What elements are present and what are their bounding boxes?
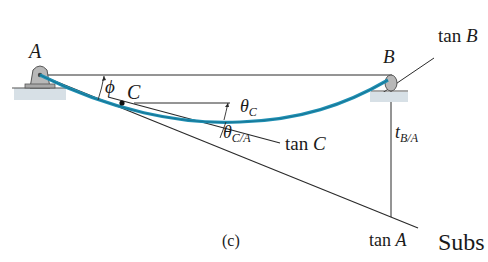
label-tan-b: tan B xyxy=(438,25,478,46)
label-theta-ca: θC/A xyxy=(223,122,251,145)
label-phi: ϕ xyxy=(105,76,115,97)
label-tan-c: tan C xyxy=(285,133,326,154)
label-tan-a: tan A xyxy=(369,230,408,250)
label-point-c: C xyxy=(127,81,141,103)
label-t-ba: tB/A xyxy=(395,122,419,145)
cut-off-text: Subs xyxy=(438,229,485,255)
label-point-b: B xyxy=(383,46,395,67)
deflection-diagram: A B C ϕ θC θC/A tan C tan B tB/A tan A (… xyxy=(0,0,488,262)
elastic-curve-beam xyxy=(40,75,388,122)
caption-c: (c) xyxy=(222,232,240,250)
label-theta-c: θC xyxy=(240,96,258,119)
label-point-a: A xyxy=(27,40,42,62)
point-c-marker xyxy=(119,100,124,105)
